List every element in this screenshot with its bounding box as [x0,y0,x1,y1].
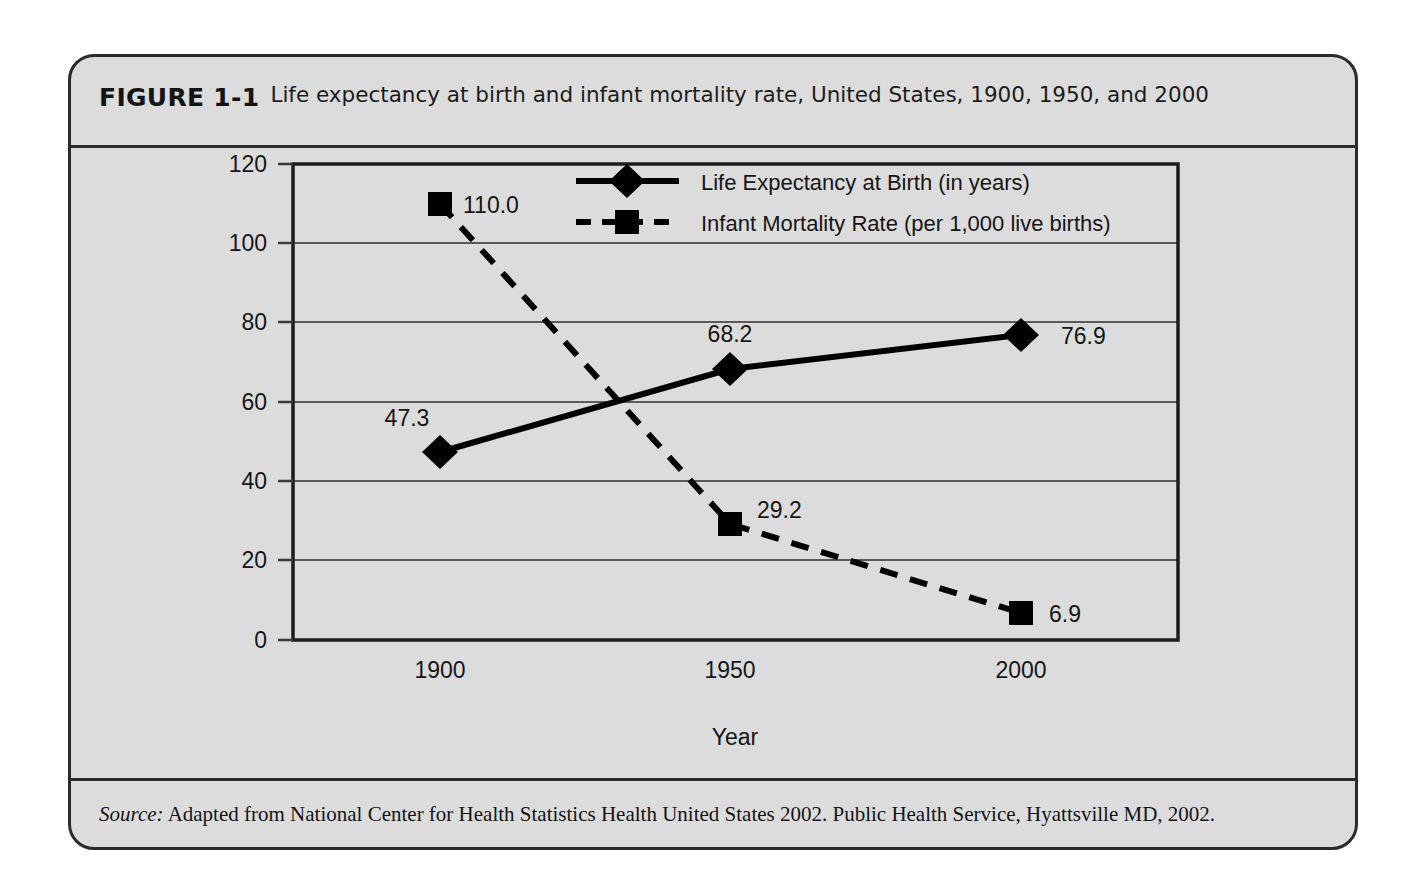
figure-number-label: FIGURE 1-1 [99,83,259,112]
y-tick-label-80: 80 [241,309,267,335]
y-tick-label-20: 20 [241,547,267,573]
data-point-labels: 110.0 29.2 6.9 47.3 68.2 76.9 [385,192,1106,627]
y-tick-label-40: 40 [241,468,267,494]
point-label-infant-1900: 110.0 [463,192,519,218]
figure-footer: Source: Adapted from National Center for… [71,778,1355,847]
point-label-life-2000: 76.9 [1061,323,1106,349]
marker-life-2000 [1003,318,1039,352]
y-axis-ticks [278,164,293,640]
source-text: Adapted from National Center for Health … [168,802,1215,826]
legend-label-infant-mortality: Infant Mortality Rate (per 1,000 live bi… [701,211,1111,236]
source-prefix: Source: [99,802,164,826]
x-axis-tick-labels: 1900 1950 2000 [414,657,1046,683]
series-line-infant-mortality [440,204,1021,613]
line-chart: 120 100 80 60 40 20 0 [71,148,1355,784]
marker-infant-1900 [428,192,452,216]
x-tick-label-1950: 1950 [704,657,755,683]
point-label-infant-2000: 6.9 [1049,601,1081,627]
point-label-life-1900: 47.3 [385,405,430,431]
x-tick-label-2000: 2000 [995,657,1046,683]
legend-marker-infant-mortality [615,210,639,234]
legend-marker-life-expectancy [609,164,645,198]
figure-header: FIGURE 1-1 Life expectancy at birth and … [71,57,1355,148]
y-tick-label-120: 120 [229,151,267,177]
y-tick-label-60: 60 [241,389,267,415]
point-label-life-1950: 68.2 [708,321,753,347]
figure-caption: Life expectancy at birth and infant mort… [270,83,1209,108]
point-label-infant-1950: 29.2 [757,497,802,523]
y-axis-tick-labels: 120 100 80 60 40 20 0 [229,151,267,653]
chart-region: 120 100 80 60 40 20 0 [71,148,1355,778]
legend-label-life-expectancy: Life Expectancy at Birth (in years) [701,170,1030,195]
marker-infant-1950 [718,512,742,536]
y-tick-label-0: 0 [254,627,267,653]
x-axis-title: Year [712,724,759,750]
chart-legend: Life Expectancy at Birth (in years) Infa… [576,164,1111,236]
figure-card: FIGURE 1-1 Life expectancy at birth and … [68,54,1358,850]
marker-life-1900 [422,435,458,469]
y-tick-label-100: 100 [229,230,267,256]
marker-life-1950 [712,352,748,386]
marker-infant-2000 [1009,601,1033,625]
source-note: Source: Adapted from National Center for… [99,802,1215,827]
x-tick-label-1900: 1900 [414,657,465,683]
